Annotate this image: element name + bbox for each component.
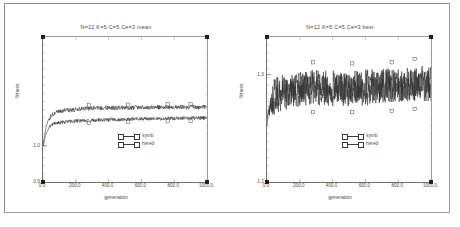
legend-marker-icon: [342, 133, 364, 139]
x-tick-label: 400.0: [326, 183, 338, 188]
legend-left: symbhered: [118, 132, 154, 148]
legend-marker-icon: [118, 141, 140, 147]
y-tick-label: 1.3: [246, 71, 264, 76]
legend-label: hered: [366, 140, 378, 148]
x-axis-title-right: generation: [232, 194, 448, 200]
y-axis-title-left: fitness: [14, 84, 20, 98]
legend-item: hered: [118, 140, 154, 148]
data-curves-left: [43, 37, 207, 182]
legend-right: symbhered: [342, 132, 378, 148]
legend-label: symb: [366, 132, 377, 140]
legend-label: hered: [142, 140, 154, 148]
chart-panel-left: N=12 K=5 C=5 Ce=3 mean fitness 0.0200.04…: [8, 6, 224, 206]
x-tick-label: 0.0: [39, 183, 45, 188]
x-tick-label: 800.0: [391, 183, 403, 188]
y-axis-min-label: 1.2: [246, 179, 264, 184]
chart-panel-right: N=12 K=5 C=5 Ce=3 best fitness 0.0200.04…: [232, 6, 448, 206]
x-tick-label: 200.0: [293, 183, 305, 188]
plot-area-right: [266, 36, 432, 183]
x-tick-label: 400.0: [102, 183, 114, 188]
x-axis-title-left: generation: [8, 194, 224, 200]
x-tick-label: 600.0: [135, 183, 147, 188]
x-tick-label: 800.0: [167, 183, 179, 188]
y-axis-title-right: fitness: [238, 84, 244, 98]
figure-page: N=12 K=5 C=5 Ce=3 mean fitness 0.0200.04…: [0, 0, 460, 227]
legend-item: hered: [342, 140, 378, 148]
x-tick-label: 0.0: [263, 183, 269, 188]
x-tick-label: 1000.0: [199, 183, 213, 188]
data-curves-right: [267, 37, 431, 182]
legend-item: symb: [342, 132, 378, 140]
y-axis-min-label: 0.9: [22, 179, 40, 184]
legend-marker-icon: [118, 133, 140, 139]
chart-title-right: N=12 K=5 C=5 Ce=3 best: [232, 24, 448, 30]
chart-title-left: N=12 K=5 C=5 Ce=3 mean: [8, 24, 224, 30]
legend-marker-icon: [342, 141, 364, 147]
legend-label: symb: [142, 132, 153, 140]
x-tick-label: 600.0: [359, 183, 371, 188]
plot-area-left: [42, 36, 208, 183]
legend-item: symb: [118, 132, 154, 140]
y-tick-label: 1.0: [22, 142, 40, 147]
x-tick-label: 200.0: [69, 183, 81, 188]
x-tick-label: 1000.0: [423, 183, 437, 188]
